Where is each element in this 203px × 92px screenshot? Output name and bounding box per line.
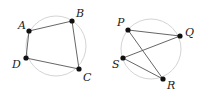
vertex-label-q: Q: [185, 26, 194, 39]
vertex-label-b: B: [75, 7, 84, 20]
vertex-b: [69, 18, 74, 23]
vertex-label-p: P: [116, 16, 125, 29]
vertex-label-a: A: [17, 19, 26, 32]
vertex-label-d: D: [11, 58, 21, 71]
segment-cd: [26, 58, 79, 69]
segment-bc: [72, 21, 79, 69]
segment-pq: [128, 30, 180, 36]
vertex-r: [160, 76, 165, 81]
vertex-label-s: S: [112, 58, 120, 71]
vertex-label-c: C: [83, 71, 92, 84]
segment-sr: [123, 58, 163, 79]
cyclic-quadrilaterals-diagram: ABCD PQRS: [0, 0, 203, 92]
vertex-p: [125, 27, 130, 32]
vertex-label-r: R: [166, 79, 175, 92]
segment-ab: [29, 21, 72, 31]
vertex-s: [120, 55, 125, 60]
vertex-q: [177, 33, 182, 38]
vertex-a: [26, 28, 31, 33]
segment-qs: [123, 36, 180, 58]
figure-pqrs: PQRS: [112, 16, 194, 92]
figure-abcd: ABCD: [11, 7, 92, 84]
vertex-d: [23, 55, 28, 60]
circumscribed-circle: [121, 19, 181, 79]
vertex-c: [76, 66, 81, 71]
